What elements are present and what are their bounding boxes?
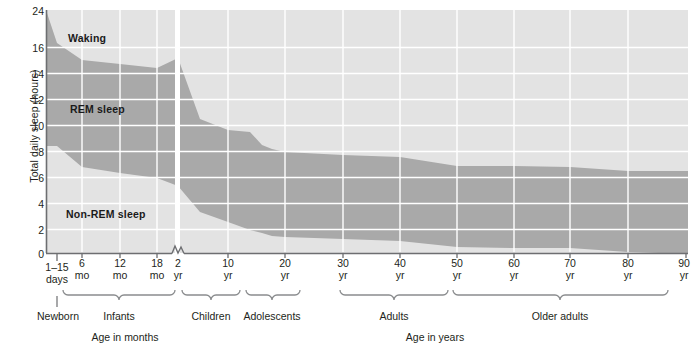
group-label-infants: Infants [89, 310, 149, 322]
x-tick-80yr-value: 80 [622, 257, 634, 269]
x-tick-6mo: 6 mo [62, 258, 102, 281]
x-tick-60yr: 60 yr [494, 258, 534, 281]
x-tick-30yr-unit: yr [339, 269, 348, 281]
group-label-adolescents: Adolescents [232, 310, 312, 322]
x-tick-50yr-unit: yr [453, 269, 462, 281]
group-label-newborn: Newborn [27, 310, 89, 322]
x-tick-60yr-unit: yr [510, 269, 519, 281]
x-tick-90yr-unit: yr [680, 269, 689, 281]
x-tick-10yr-unit: yr [224, 269, 233, 281]
bracket-children [182, 290, 240, 300]
x-tick-70yr-unit: yr [566, 269, 575, 281]
x-tick-20yr: 20 yr [265, 258, 305, 281]
bracket-older-adults [453, 290, 668, 300]
group-label-adults: Adults [364, 310, 424, 322]
x-tick-70yr-value: 70 [564, 257, 576, 269]
x-tick-20yr-value: 20 [279, 257, 291, 269]
x-tick-80yr-unit: yr [624, 269, 633, 281]
x-tick-90yr-value: 90 [678, 257, 690, 269]
x-tick-6mo-value: 6 [79, 257, 85, 269]
x-tick-2yr-value: 2 [175, 257, 181, 269]
x-tick-90yr: 90 yr [664, 258, 695, 281]
x-tick-40yr-value: 40 [394, 257, 406, 269]
x-tick-12mo: 12 mo [100, 258, 140, 281]
x-tick-30yr: 30 yr [323, 258, 363, 281]
group-label-older-adults: Older adults [522, 310, 598, 322]
x-tick-40yr: 40 yr [380, 258, 420, 281]
x-axis-title-months: Age in months [70, 331, 180, 343]
bracket-adults [340, 290, 448, 300]
x-tick-50yr-value: 50 [451, 257, 463, 269]
bracket-infants [63, 290, 175, 300]
x-tick-2yr: 2 yr [158, 258, 198, 281]
x-tick-40yr-unit: yr [396, 269, 405, 281]
band-label-rem: REM sleep [70, 103, 125, 115]
axis-break-gap [175, 10, 180, 253]
x-tick-10yr: 10 yr [208, 258, 248, 281]
band-label-non-rem: Non-REM sleep [66, 208, 146, 220]
x-tick-10yr-value: 10 [222, 257, 234, 269]
x-tick-12mo-value: 12 [114, 257, 126, 269]
x-tick-6mo-unit: mo [75, 269, 90, 281]
bracket-adolescents [246, 290, 300, 300]
x-tick-2yr-unit: yr [174, 269, 183, 281]
x-tick-50yr: 50 yr [437, 258, 477, 281]
x-tick-20yr-unit: yr [281, 269, 290, 281]
group-brackets [63, 290, 668, 300]
x-tick-80yr: 80 yr [608, 258, 648, 281]
x-tick-70yr: 70 yr [550, 258, 590, 281]
band-label-waking: Waking [68, 32, 106, 44]
x-axis-title-years: Age in years [380, 331, 490, 343]
x-tick-60yr-value: 60 [508, 257, 520, 269]
x-tick-12mo-unit: mo [113, 269, 128, 281]
x-tick-30yr-value: 30 [337, 257, 349, 269]
